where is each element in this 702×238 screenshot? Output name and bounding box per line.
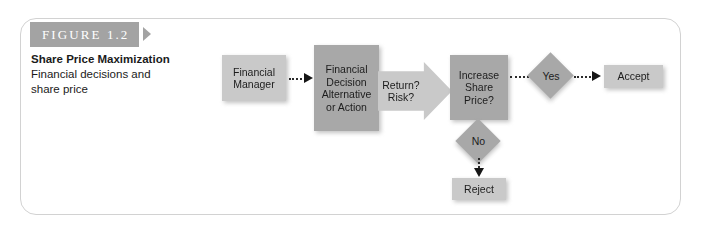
node-increase-share-price: Increase Share Price? bbox=[450, 55, 508, 120]
figure-banner: FIGURE 1.2 bbox=[30, 22, 139, 47]
node-increase-share-price-line-2: Share bbox=[459, 81, 499, 94]
connector-shareprice-to-yes bbox=[510, 76, 529, 78]
node-reject: Reject bbox=[452, 178, 506, 200]
arrowhead-yes-to-accept-icon bbox=[592, 71, 601, 81]
connector-yes-to-accept bbox=[574, 76, 594, 78]
caption-title: Share Price Maximization bbox=[31, 52, 206, 67]
figure-banner-label: FIGURE 1.2 bbox=[42, 27, 129, 43]
node-financial-manager: Financial Manager bbox=[222, 55, 286, 101]
node-increase-share-price-line-3: Price? bbox=[459, 94, 499, 107]
node-financial-decision-line-3: Alternative bbox=[322, 88, 372, 101]
banner-chevron-icon bbox=[143, 27, 151, 41]
arrowhead-no-to-reject-icon bbox=[474, 168, 484, 177]
node-return-risk-line-2: Risk? bbox=[378, 91, 424, 104]
node-financial-decision-line-1: Financial bbox=[322, 63, 372, 76]
node-yes-diamond-label: Yes bbox=[528, 68, 574, 84]
node-financial-decision: Financial Decision Alternative or Action bbox=[314, 45, 379, 131]
node-reject-label: Reject bbox=[464, 183, 494, 196]
node-accept-label: Accept bbox=[617, 70, 649, 83]
node-financial-decision-line-4: or Action bbox=[322, 101, 372, 114]
node-no-diamond-label: No bbox=[456, 133, 501, 149]
arrowhead-manager-to-decision-icon bbox=[304, 73, 313, 83]
caption-subtitle-line-1: Financial decisions and bbox=[31, 67, 206, 82]
node-accept: Accept bbox=[604, 65, 663, 88]
node-financial-manager-line-1: Financial bbox=[233, 66, 275, 79]
node-financial-decision-line-2: Decision bbox=[322, 76, 372, 89]
node-return-risk-line-1: Return? bbox=[378, 79, 424, 92]
node-increase-share-price-line-1: Increase bbox=[459, 69, 499, 82]
node-financial-manager-line-2: Manager bbox=[233, 78, 275, 91]
figure-canvas: FIGURE 1.2 Share Price Maximization Fina… bbox=[0, 0, 702, 238]
figure-caption: Share Price Maximization Financial decis… bbox=[31, 52, 206, 97]
caption-subtitle-line-2: share price bbox=[31, 82, 206, 97]
